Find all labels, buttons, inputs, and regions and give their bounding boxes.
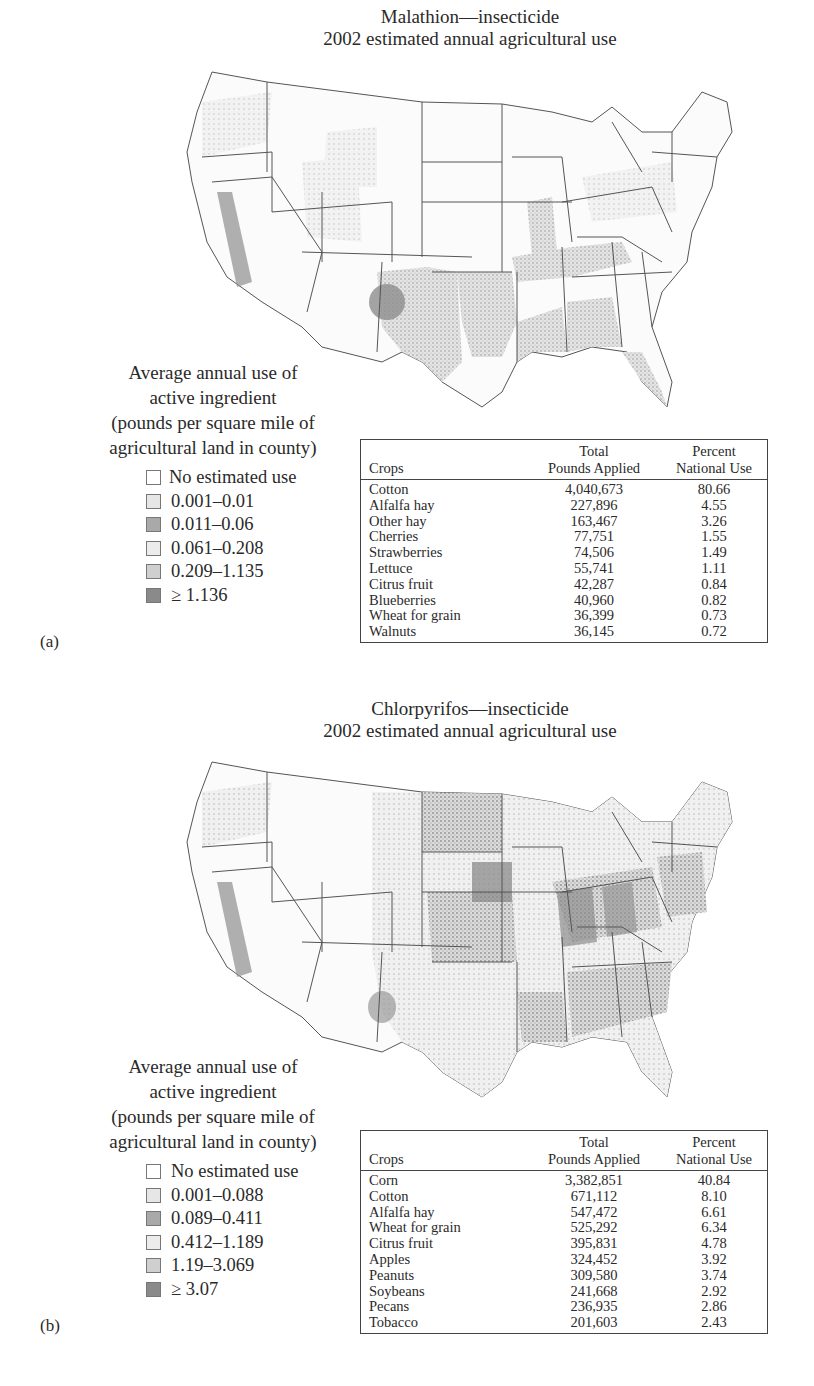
legend-label: 0.209–1.135	[171, 560, 264, 584]
crop-usage-table: Crops TotalPounds Applied PercentNationa…	[360, 1130, 768, 1334]
cell-crop: Pecans	[369, 1299, 519, 1315]
cell-crop: Other hay	[369, 514, 519, 530]
cell-pounds: 547,472	[519, 1205, 669, 1221]
table-row: Cotton671,1128.10	[369, 1189, 759, 1205]
table-row: Pecans236,9352.86	[369, 1299, 759, 1315]
cell-pounds: 324,452	[519, 1252, 669, 1268]
cell-pounds: 42,287	[519, 577, 669, 593]
legend-swatch-icon	[146, 1164, 161, 1179]
cell-percent: 2.92	[669, 1284, 759, 1300]
cell-percent: 80.66	[669, 482, 759, 498]
cell-crop: Alfalfa hay	[369, 1205, 519, 1221]
cell-crop: Cotton	[369, 482, 519, 498]
table-header: Crops TotalPounds Applied PercentNationa…	[361, 1131, 767, 1171]
title-line-1: Chlorpyrifos—insecticide	[0, 698, 814, 720]
header-line: Pounds Applied	[519, 1151, 669, 1168]
cell-percent: 3.26	[669, 514, 759, 530]
legend-heading-line: Average annual use of	[88, 1054, 338, 1079]
table-row: Cotton4,040,67380.66	[369, 482, 759, 498]
cell-crop: Walnuts	[369, 624, 519, 640]
cell-pounds: 36,145	[519, 624, 669, 640]
header-line: Total	[519, 443, 669, 460]
table-row: Wheat for grain525,2926.34	[369, 1220, 759, 1236]
table-row: Blueberries40,9600.82	[369, 593, 759, 609]
cell-pounds: 4,040,673	[519, 482, 669, 498]
legend-swatch-icon	[146, 541, 161, 556]
legend-swatch-icon	[146, 1282, 161, 1297]
column-header-percent: PercentNational Use	[669, 443, 759, 477]
legend-label: 0.001–0.088	[171, 1184, 264, 1208]
legend-label: 0.061–0.208	[171, 537, 264, 561]
cell-crop: Lettuce	[369, 561, 519, 577]
legend-swatch-icon	[146, 1188, 161, 1203]
cell-pounds: 36,399	[519, 608, 669, 624]
cell-percent: 0.72	[669, 624, 759, 640]
legend: No estimated use 0.001–0.088 0.089–0.411…	[146, 1160, 298, 1301]
cell-pounds: 309,580	[519, 1268, 669, 1284]
panel-label: (a)	[40, 632, 59, 652]
cell-percent: 3.74	[669, 1268, 759, 1284]
legend-swatch-icon	[146, 517, 161, 532]
legend-swatch-icon	[146, 588, 161, 603]
legend-label: 0.011–0.06	[171, 513, 254, 537]
table-row: Other hay163,4673.26	[369, 514, 759, 530]
table-row: Walnuts36,1450.72	[369, 624, 759, 640]
cell-pounds: 227,896	[519, 498, 669, 514]
cell-pounds: 525,292	[519, 1220, 669, 1236]
legend-label: No estimated use	[169, 466, 296, 490]
legend-label: 0.089–0.411	[171, 1207, 263, 1231]
legend-label: ≥ 3.07	[171, 1278, 218, 1302]
header-line: Percent	[669, 443, 759, 460]
table-body: Corn3,382,85140.84 Cotton671,1128.10 Alf…	[361, 1171, 767, 1333]
header-line: Total	[519, 1134, 669, 1151]
legend-item: No estimated use	[146, 466, 296, 490]
title-line-1: Malathion—insecticide	[0, 6, 814, 28]
header-line: National Use	[669, 1151, 759, 1168]
legend-heading-line: Average annual use of	[88, 360, 338, 385]
cell-crop: Corn	[369, 1173, 519, 1189]
table-row: Citrus fruit395,8314.78	[369, 1236, 759, 1252]
legend-swatch-icon	[146, 564, 161, 579]
header-line: Pounds Applied	[519, 460, 669, 477]
figure-title: Chlorpyrifos—insecticide 2002 estimated …	[0, 698, 814, 742]
legend-heading-line: (pounds per square mile of	[88, 410, 338, 435]
cell-pounds: 671,112	[519, 1189, 669, 1205]
cell-crop: Blueberries	[369, 593, 519, 609]
cell-pounds: 201,603	[519, 1315, 669, 1331]
legend-heading: Average annual use of active ingredient …	[88, 360, 338, 460]
figure-panel-a: Malathion—insecticide 2002 estimated ann…	[0, 0, 814, 690]
legend-label: No estimated use	[171, 1160, 298, 1184]
legend-heading-line: agricultural land in county)	[88, 1129, 338, 1154]
cell-percent: 8.10	[669, 1189, 759, 1205]
crop-usage-table: Crops TotalPounds Applied PercentNationa…	[360, 439, 768, 643]
title-line-2: 2002 estimated annual agricultural use	[0, 720, 814, 742]
cell-percent: 1.49	[669, 545, 759, 561]
cell-percent: 2.86	[669, 1299, 759, 1315]
table-row: Apples324,4523.92	[369, 1252, 759, 1268]
cell-percent: 2.43	[669, 1315, 759, 1331]
cell-crop: Soybeans	[369, 1284, 519, 1300]
header-line: Percent	[669, 1134, 759, 1151]
legend-label: ≥ 1.136	[171, 584, 227, 608]
legend: No estimated use 0.001–0.01 0.011–0.06 0…	[146, 466, 296, 607]
legend-item: ≥ 3.07	[146, 1278, 298, 1302]
legend-swatch-icon	[146, 1211, 161, 1226]
figure-panel-b: Chlorpyrifos—insecticide 2002 estimated …	[0, 690, 814, 1386]
legend-item: No estimated use	[146, 1160, 298, 1184]
cell-crop: Tobacco	[369, 1315, 519, 1331]
legend-item: 0.412–1.189	[146, 1231, 298, 1255]
legend-label: 1.19–3.069	[171, 1254, 254, 1278]
cell-crop: Wheat for grain	[369, 1220, 519, 1236]
legend-swatch-icon	[146, 470, 161, 485]
cell-percent: 3.92	[669, 1252, 759, 1268]
cell-pounds: 236,935	[519, 1299, 669, 1315]
cell-percent: 6.61	[669, 1205, 759, 1221]
column-header-pounds: TotalPounds Applied	[519, 443, 669, 477]
table-row: Peanuts309,5803.74	[369, 1268, 759, 1284]
cell-percent: 0.82	[669, 593, 759, 609]
table-row: Alfalfa hay547,4726.61	[369, 1205, 759, 1221]
legend-item: 0.001–0.088	[146, 1184, 298, 1208]
table-row: Cherries77,7511.55	[369, 529, 759, 545]
cell-percent: 40.84	[669, 1173, 759, 1189]
legend-heading-line: (pounds per square mile of	[88, 1104, 338, 1129]
